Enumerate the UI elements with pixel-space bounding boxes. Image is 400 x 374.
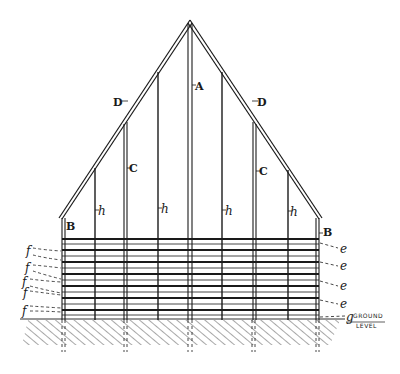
ground-hatching	[20, 319, 345, 345]
label-f-5: f	[21, 304, 29, 318]
label-e-2: e	[340, 259, 347, 273]
label-h-1: h	[98, 204, 106, 218]
label-b-left: B	[66, 220, 75, 233]
label-b-right: B	[323, 226, 332, 239]
label-h-2: h	[161, 202, 169, 216]
diagram-canvas: A D D C C h h h h B B f f f f f e e e e …	[0, 0, 400, 374]
center-post-a	[188, 24, 192, 320]
label-ground: GROUND	[353, 312, 383, 319]
rafter-right	[188, 20, 322, 219]
label-f-2: f	[24, 261, 32, 275]
label-h-4: h	[290, 205, 298, 219]
label-c-right: C	[259, 165, 268, 178]
label-level: LEVEL	[356, 322, 377, 329]
leader-lines	[95, 85, 323, 233]
horizontal-slats	[62, 239, 319, 315]
label-f-4: f	[22, 286, 30, 300]
studs-c	[124, 122, 256, 320]
label-e-3: e	[340, 279, 347, 293]
label-f-1: f	[25, 244, 33, 258]
label-h-3: h	[225, 204, 233, 218]
label-e-4: e	[340, 297, 347, 311]
label-e-1: e	[340, 242, 347, 256]
eave-posts	[62, 218, 319, 320]
leaders-f	[30, 248, 61, 312]
label-c-left: C	[129, 162, 138, 175]
rafter-left	[59, 20, 192, 219]
label-a: A	[194, 80, 204, 93]
label-d-right: D	[257, 96, 267, 109]
frame-elevation-drawing: A D D C C h h h h B B f f f f f e e e e …	[0, 0, 400, 374]
label-d-left: D	[113, 96, 123, 109]
